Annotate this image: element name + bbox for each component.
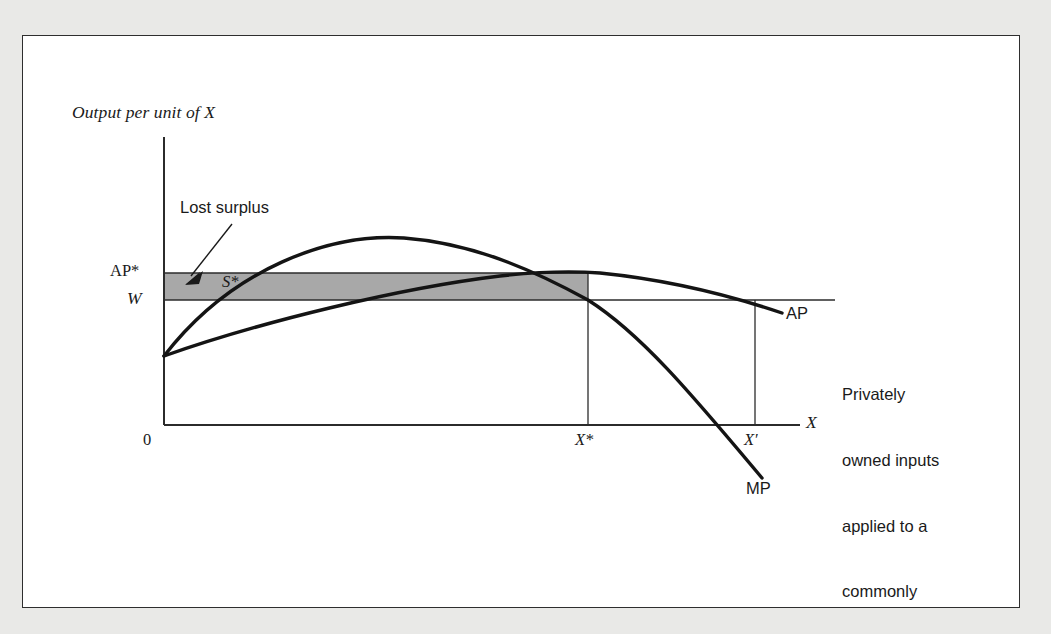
lost-surplus-arrow-shaft [191,224,232,276]
ap-curve-label: AP [786,304,808,323]
side-note: Privately owned inputs applied to a comm… [842,340,939,634]
side-note-line: Privately [842,384,939,406]
surplus-region-label: S* [222,272,239,291]
origin-label: 0 [143,430,151,449]
mp-curve-label: MP [746,479,771,498]
y-tick-label-ap-star: AP* [110,261,139,280]
x-axis-title: X [806,412,817,433]
x-tick-label-x-prime: X′ [744,430,758,449]
lost-surplus-annotation: Lost surplus [180,198,269,217]
side-note-line: commonly [842,581,939,603]
y-tick-label-wage: W [127,288,142,309]
side-note-line: applied to a [842,516,939,538]
x-tick-label-x-star: X* [575,430,593,449]
y-axis-title: Output per unit of X [72,102,215,123]
side-note-line: owned inputs [842,450,939,472]
